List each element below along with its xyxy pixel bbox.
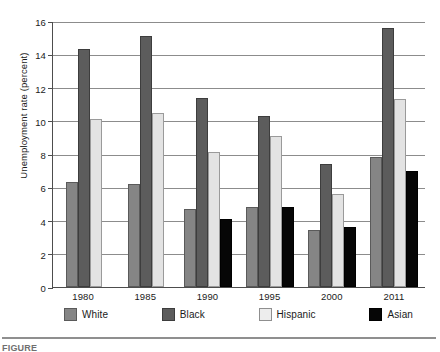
x-axis-tick-label-1995: 1995	[239, 291, 301, 302]
bar-group-2000	[301, 22, 363, 287]
bar-white-2000	[308, 230, 320, 287]
bar-black-1985	[140, 36, 152, 287]
bar-hispanic-1980	[90, 119, 102, 287]
legend-item-black: Black	[162, 308, 205, 321]
bar-black-1995	[258, 116, 270, 287]
legend-label-white: White	[82, 309, 108, 320]
figure-divider-rule	[2, 337, 436, 339]
figure-root: Unemployment rate (percent) 024681012141…	[0, 0, 440, 352]
bar-group-1980	[53, 22, 115, 287]
x-axis-tick-label-2011: 2011	[363, 291, 425, 302]
y-axis-tick-label: 10	[22, 116, 46, 127]
bar-black-1980	[78, 49, 90, 287]
x-axis-tick-label-1990: 1990	[176, 291, 238, 302]
chart-plot-area	[52, 22, 425, 288]
bar-asian-2000	[344, 227, 356, 287]
bar-white-1995	[246, 207, 258, 287]
bar-asian-1995	[282, 207, 294, 287]
y-axis-tick-label: 2	[22, 249, 46, 260]
x-axis-tick-label-1985: 1985	[114, 291, 176, 302]
legend-item-hispanic: Hispanic	[259, 308, 316, 321]
bar-hispanic-1995	[270, 136, 282, 287]
legend-swatch-hispanic-icon	[259, 308, 272, 321]
bar-group-1985	[115, 22, 177, 287]
bar-white-1990	[184, 209, 196, 287]
bar-black-2011	[382, 28, 394, 287]
y-axis-tick-label: 16	[22, 17, 46, 28]
bar-asian-2011	[406, 171, 418, 287]
x-axis-tick-label-1980: 1980	[52, 291, 114, 302]
bar-hispanic-1990	[208, 152, 220, 287]
legend-label-hispanic: Hispanic	[277, 309, 316, 320]
bar-black-2000	[320, 164, 332, 287]
x-axis-tick-label-2000: 2000	[301, 291, 363, 302]
bar-hispanic-2000	[332, 194, 344, 287]
legend-label-asian: Asian	[387, 309, 413, 320]
bar-groups	[53, 22, 425, 287]
bar-hispanic-2011	[394, 99, 406, 287]
y-axis-tick-label: 4	[22, 216, 46, 227]
legend-label-black: Black	[180, 309, 205, 320]
y-axis-tick	[48, 288, 53, 289]
y-axis-tick-labels: 0246810121416	[16, 22, 46, 288]
bar-group-2011	[363, 22, 425, 287]
bar-group-1995	[239, 22, 301, 287]
y-axis-tick-label: 0	[22, 283, 46, 294]
bar-white-2011	[370, 157, 382, 287]
legend-item-white: White	[64, 308, 108, 321]
x-axis-tick-labels: 198019851990199520002011	[52, 291, 425, 302]
bar-group-1990	[177, 22, 239, 287]
legend-item-asian: Asian	[369, 308, 413, 321]
y-axis-tick-label: 8	[22, 150, 46, 161]
legend-swatch-white-icon	[64, 308, 77, 321]
y-axis-tick-label: 14	[22, 50, 46, 61]
y-axis-tick-label: 12	[22, 83, 46, 94]
legend-swatch-black-icon	[162, 308, 175, 321]
bar-asian-1990	[220, 219, 232, 287]
bar-black-1990	[196, 98, 208, 287]
bar-white-1980	[66, 182, 78, 287]
bar-white-1985	[128, 184, 140, 287]
figure-caption: FIGURE	[2, 343, 37, 352]
chart-legend: WhiteBlackHispanicAsian	[52, 308, 425, 321]
y-axis-tick-label: 6	[22, 183, 46, 194]
legend-swatch-asian-icon	[369, 308, 382, 321]
bar-hispanic-1985	[152, 113, 164, 287]
